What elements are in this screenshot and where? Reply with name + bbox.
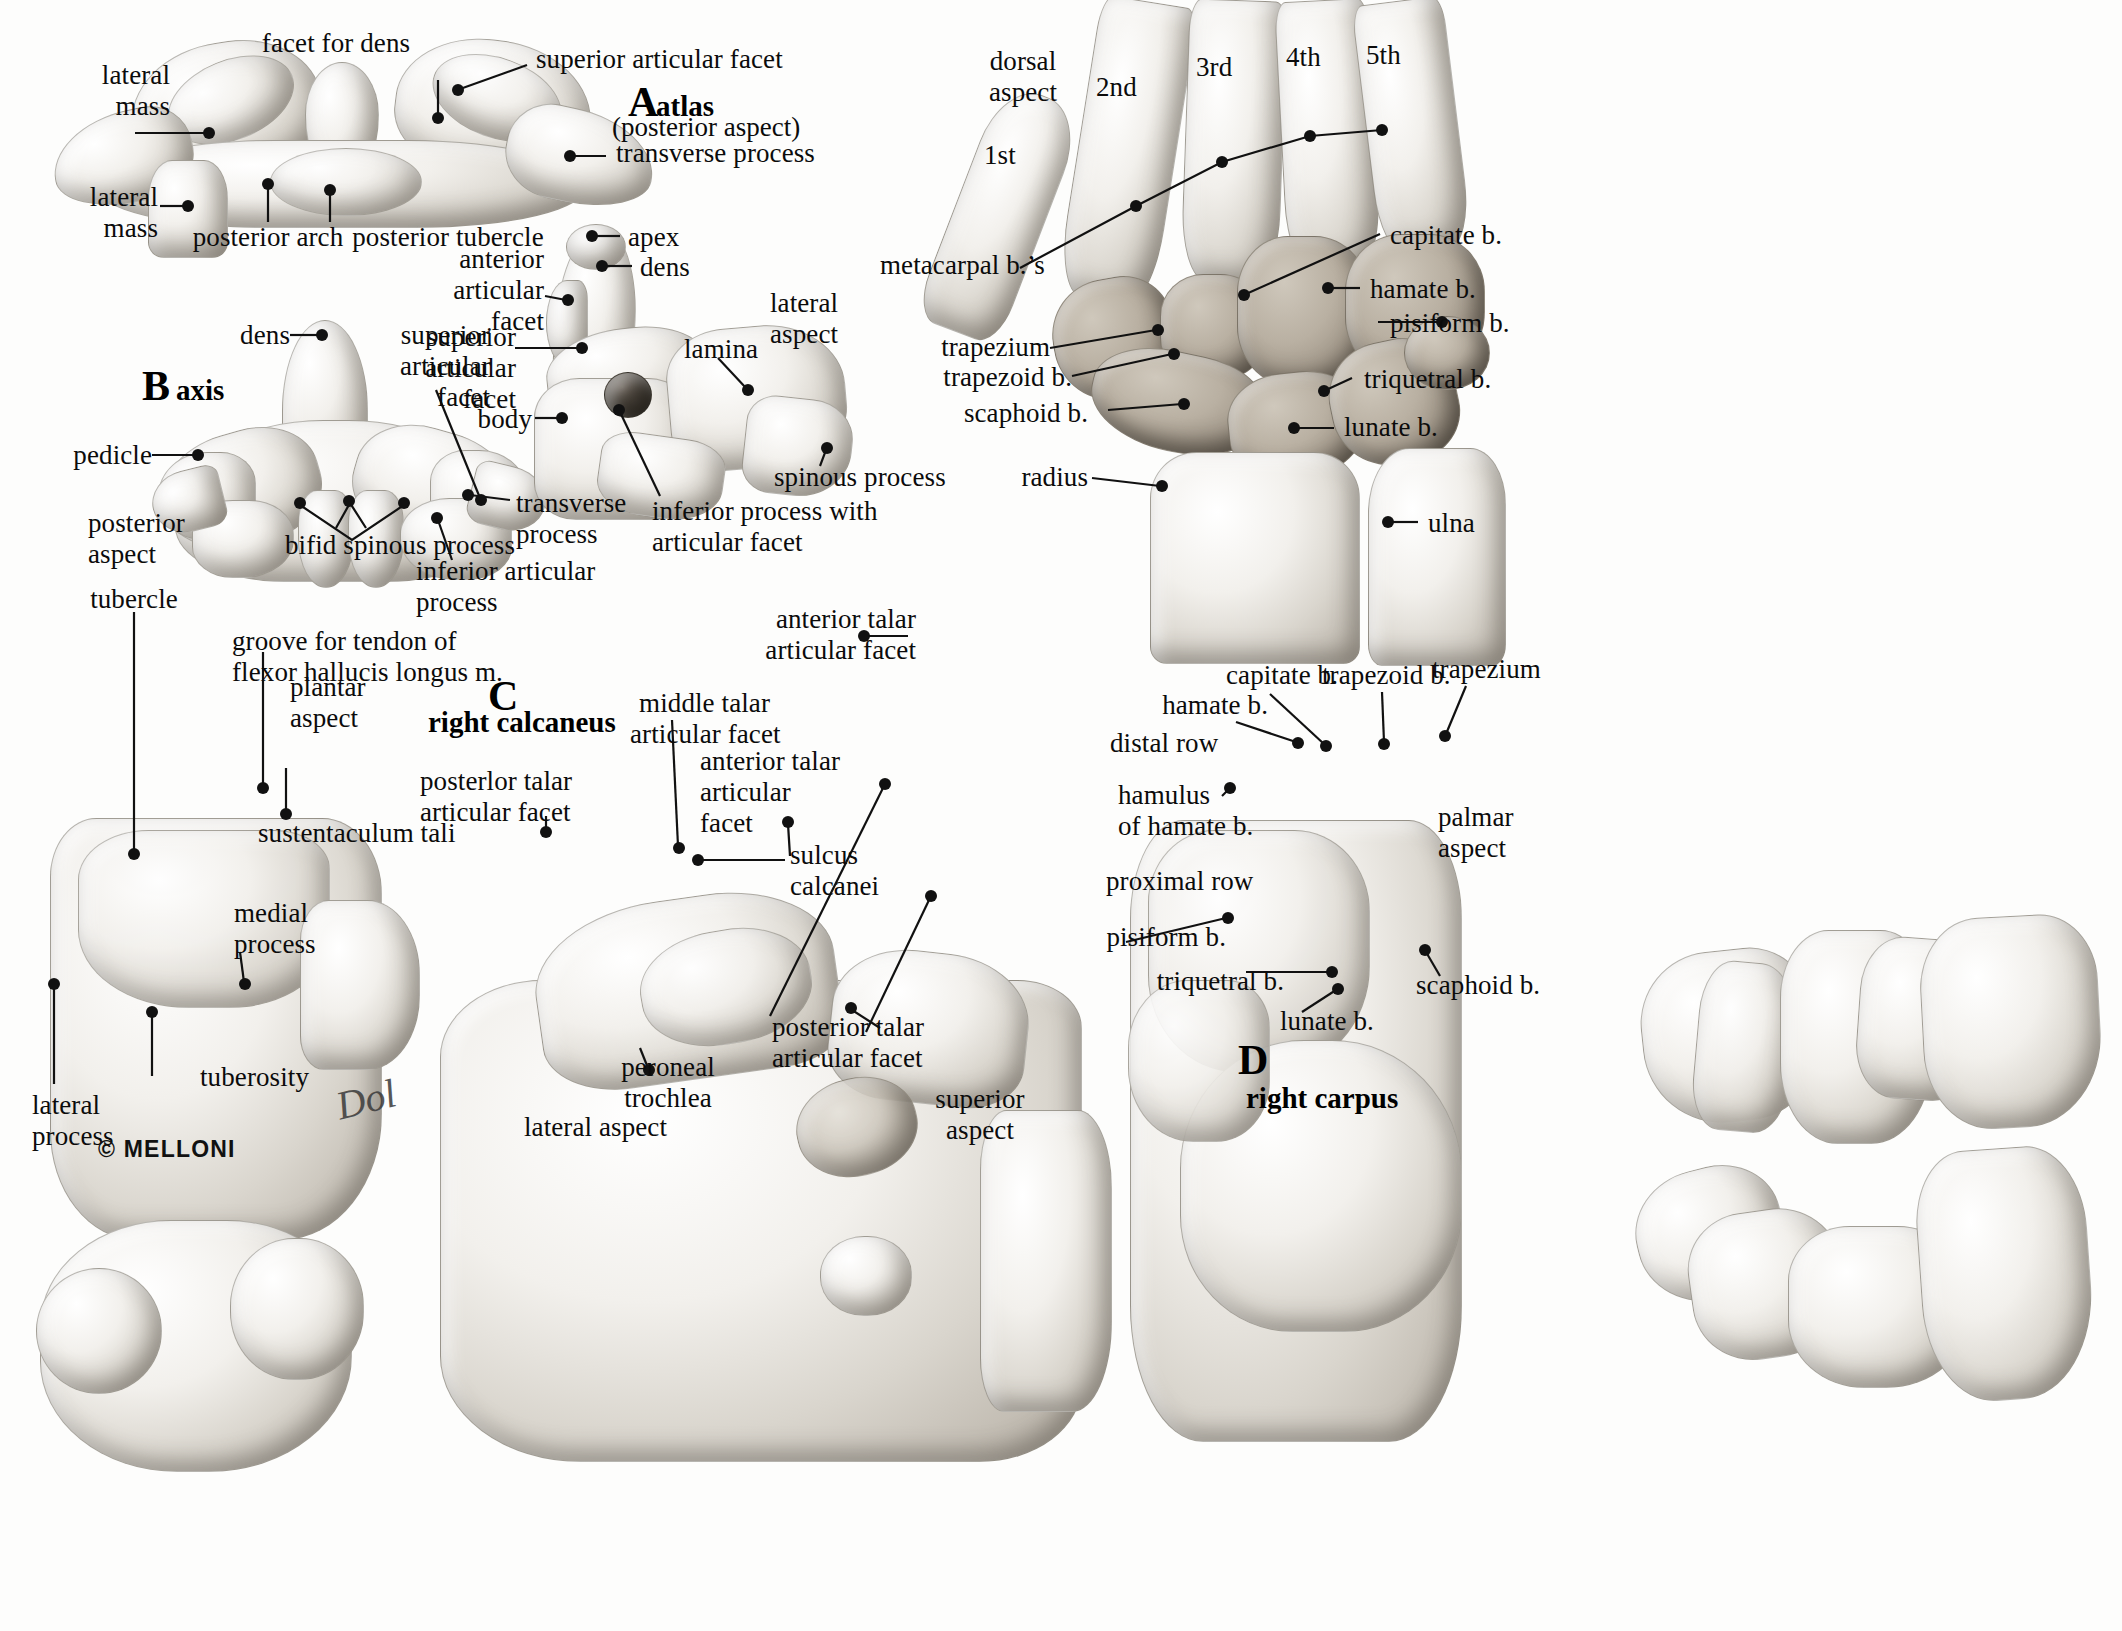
radius-bone (1150, 452, 1360, 664)
calcaneus-peroneal-trochlea (820, 1236, 912, 1316)
atlas-posterior-tubercle (270, 148, 422, 216)
label-lamina: lamina (684, 334, 758, 365)
label-trapezoid-dorsal: trapezoid b. (920, 362, 1072, 393)
label-transverse-process-axis: transverse process (516, 488, 626, 550)
label-palmar-aspect: palmar aspect (1438, 802, 1514, 864)
label-superior-articular-facet-lateral: superior articular facet (424, 322, 516, 414)
calcaneus-lateral-anterior-end (980, 1110, 1112, 1412)
label-lateral-aspect-calcaneus: lateral aspect (524, 1112, 667, 1143)
label-triquetral-palmar: triquetral b. (1138, 966, 1284, 997)
label-posterior-aspect-axis: posterior aspect (88, 508, 185, 570)
ulna-bone (1368, 448, 1506, 666)
label-posterior-talar-articular-facet-right: posterior talar articular facet (772, 1012, 924, 1074)
panel-letter-d: D (1238, 1036, 1268, 1084)
label-metacarpal-3rd: 3rd (1196, 52, 1232, 83)
label-trapezium-dorsal: trapezium (930, 332, 1050, 363)
label-radius: radius (960, 462, 1088, 493)
label-peroneal-trochlea: peroneal trochlea (598, 1052, 738, 1114)
calcaneus-lateral-process (36, 1268, 162, 1394)
label-hamate-palmar: hamate b. (1150, 690, 1268, 721)
label-spinous-process-axis: spinous process (774, 462, 946, 493)
label-pisiform-palmar: pisiform b. (1104, 922, 1226, 953)
label-ulna: ulna (1428, 508, 1475, 539)
trapezium-bone-palmar (1917, 911, 2106, 1132)
label-pisiform-dorsal: pisiform b. (1390, 308, 1510, 339)
label-inferior-process-with-articular-facet: inferior process with articular facet (652, 496, 878, 558)
label-posterior-talar-articular-facet-mid: posterlor talar articular facet (420, 766, 550, 828)
label-medial-process: medial process (234, 898, 316, 960)
label-metacarpal-4th: 4th (1286, 42, 1321, 73)
copyright-notice: © MELLONI (98, 1136, 236, 1163)
calcaneus-sustentaculum-tali (300, 900, 420, 1070)
label-body: body (466, 404, 532, 435)
label-hamate-dorsal: hamate b. (1370, 274, 1476, 305)
label-anterior-talar-articular-facet-mid: anterior talar articular facet (700, 746, 840, 838)
label-proximal-row: proximal row (1106, 866, 1253, 897)
label-dens-lateral: dens (640, 252, 690, 283)
label-scaphoid-palmar: scaphoid b. (1416, 970, 1540, 1001)
label-metacarpal-bones: metacarpal b.’s (880, 250, 1020, 281)
label-distal-row: distal row (1110, 728, 1218, 759)
label-pedicle: pedicle (70, 440, 152, 471)
label-lunate-palmar: lunate b. (1280, 1006, 1374, 1037)
label-facet-for-dens: facet for dens (236, 28, 436, 59)
label-triquetral-dorsal: triquetral b. (1364, 364, 1491, 395)
label-apex: apex (628, 222, 679, 253)
label-sulcus-calcanei: sulcus calcanei (790, 840, 879, 902)
label-lunate-dorsal: lunate b. (1344, 412, 1438, 443)
label-dens-posterior: dens (170, 320, 290, 351)
label-tuberosity: tuberosity (200, 1062, 309, 1093)
panel-subtitle-atlas: (posterior aspect) (612, 112, 800, 143)
label-anterior-talar-articular-facet-right: anterior talar articular facet (760, 604, 916, 666)
panel-name-right-calcaneus: right calcaneus (428, 706, 616, 739)
label-superior-aspect: superior aspect (910, 1084, 1050, 1146)
axis-lateral-foramen (604, 372, 652, 418)
panel-name-axis: axis (176, 374, 224, 407)
label-metacarpal-1st: 1st (984, 140, 1016, 171)
label-groove-flexor-hallucis-longus: groove for tendon of flexor hallucis lon… (232, 626, 503, 688)
label-trapezium-palmar: trapezium (1432, 654, 1541, 685)
panel-name-right-carpus: right carpus (1246, 1082, 1398, 1115)
label-metacarpal-5th: 5th (1366, 40, 1401, 71)
label-lateral-aspect-axis: lateral aspect (770, 288, 838, 350)
label-lateral-mass-upper: lateral mass (60, 60, 170, 122)
label-superior-articular-facet: superior articular facet (536, 44, 783, 75)
label-capitate-dorsal: capitate b. (1390, 220, 1502, 251)
label-dorsal-aspect: dorsal aspect (968, 46, 1078, 108)
calcaneus-medial-process (230, 1238, 364, 1380)
label-plantar-aspect: plantar aspect (290, 672, 366, 734)
label-metacarpal-2nd: 2nd (1096, 72, 1137, 103)
label-scaphoid-dorsal: scaphoid b. (930, 398, 1088, 429)
label-tubercle: tubercle (74, 584, 194, 615)
panel-letter-b: B (142, 362, 170, 410)
atlas-plate: lateral mass facet for dens superior art… (0, 0, 2122, 1631)
label-hamulus-of-hamate: hamulus of hamate b. (1118, 780, 1253, 842)
label-lateral-mass-lower: lateral mass (60, 182, 158, 244)
label-inferior-articular-process-axis: inferior articular process (416, 556, 595, 618)
label-middle-talar-articular-facet: middle talar articular facet (630, 688, 770, 750)
